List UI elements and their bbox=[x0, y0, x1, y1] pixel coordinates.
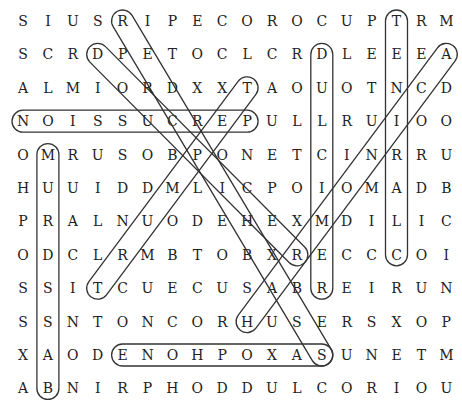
letter-cell[interactable]: X bbox=[385, 310, 409, 334]
letter-cell[interactable]: R bbox=[360, 376, 384, 400]
letter-cell[interactable]: M bbox=[434, 9, 458, 33]
letter-cell[interactable]: L bbox=[310, 109, 334, 133]
letter-cell[interactable]: R bbox=[385, 143, 409, 167]
letter-cell[interactable]: N bbox=[434, 276, 458, 300]
letter-cell[interactable]: A bbox=[11, 76, 35, 100]
letter-cell[interactable]: R bbox=[335, 109, 359, 133]
letter-cell[interactable]: I bbox=[86, 76, 110, 100]
letter-cell[interactable]: R bbox=[136, 76, 160, 100]
letter-cell[interactable]: N bbox=[61, 310, 85, 334]
letter-cell[interactable]: U bbox=[136, 109, 160, 133]
letter-cell[interactable]: L bbox=[385, 209, 409, 233]
letter-cell[interactable]: S bbox=[36, 276, 60, 300]
letter-cell[interactable]: N bbox=[61, 376, 85, 400]
letter-cell[interactable]: C bbox=[160, 109, 184, 133]
letter-cell[interactable]: N bbox=[11, 109, 35, 133]
letter-cell[interactable]: N bbox=[111, 209, 135, 233]
letter-cell[interactable]: U bbox=[61, 9, 85, 33]
letter-cell[interactable]: L bbox=[86, 243, 110, 267]
letter-cell[interactable]: U bbox=[310, 76, 334, 100]
letter-cell[interactable]: P bbox=[185, 143, 209, 167]
letter-cell[interactable]: I bbox=[360, 276, 384, 300]
letter-cell[interactable]: C bbox=[61, 243, 85, 267]
letter-cell[interactable]: I bbox=[210, 176, 234, 200]
letter-cell[interactable]: O bbox=[210, 143, 234, 167]
letter-cell[interactable]: L bbox=[335, 42, 359, 66]
letter-cell[interactable]: D bbox=[434, 76, 458, 100]
letter-cell[interactable]: E bbox=[111, 343, 135, 367]
letter-cell[interactable]: E bbox=[360, 42, 384, 66]
letter-cell[interactable]: R bbox=[61, 143, 85, 167]
letter-cell[interactable]: O bbox=[285, 176, 309, 200]
letter-cell[interactable]: X bbox=[11, 343, 35, 367]
letter-cell[interactable]: P bbox=[260, 176, 284, 200]
letter-cell[interactable]: O bbox=[285, 76, 309, 100]
letter-cell[interactable]: C bbox=[210, 9, 234, 33]
letter-cell[interactable]: D bbox=[185, 209, 209, 233]
letter-cell[interactable]: U bbox=[61, 176, 85, 200]
letter-cell[interactable]: L bbox=[36, 76, 60, 100]
letter-cell[interactable]: I bbox=[86, 176, 110, 200]
letter-cell[interactable]: S bbox=[11, 42, 35, 66]
letter-cell[interactable]: P bbox=[111, 42, 135, 66]
letter-cell[interactable]: I bbox=[434, 243, 458, 267]
letter-cell[interactable]: B bbox=[235, 243, 259, 267]
letter-cell[interactable]: T bbox=[86, 276, 110, 300]
letter-cell[interactable]: E bbox=[409, 42, 433, 66]
letter-cell[interactable]: E bbox=[260, 143, 284, 167]
letter-cell[interactable]: R bbox=[111, 243, 135, 267]
letter-cell[interactable]: L bbox=[285, 376, 309, 400]
letter-cell[interactable]: P bbox=[360, 9, 384, 33]
letter-cell[interactable]: O bbox=[11, 243, 35, 267]
letter-cell[interactable]: E bbox=[136, 42, 160, 66]
letter-cell[interactable]: U bbox=[434, 143, 458, 167]
letter-cell[interactable]: S bbox=[11, 9, 35, 33]
letter-cell[interactable]: C bbox=[235, 176, 259, 200]
letter-cell[interactable]: I bbox=[385, 376, 409, 400]
letter-cell[interactable]: C bbox=[310, 9, 334, 33]
letter-cell[interactable]: X bbox=[260, 343, 284, 367]
letter-cell[interactable]: C bbox=[36, 42, 60, 66]
letter-cell[interactable]: O bbox=[409, 310, 433, 334]
letter-cell[interactable]: P bbox=[210, 343, 234, 367]
letter-cell[interactable]: P bbox=[434, 310, 458, 334]
letter-cell[interactable]: U bbox=[260, 109, 284, 133]
letter-cell[interactable]: I bbox=[36, 9, 60, 33]
letter-cell[interactable]: M bbox=[36, 143, 60, 167]
letter-cell[interactable]: O bbox=[185, 376, 209, 400]
letter-cell[interactable]: D bbox=[86, 42, 110, 66]
letter-cell[interactable]: U bbox=[360, 109, 384, 133]
letter-cell[interactable]: A bbox=[385, 176, 409, 200]
letter-cell[interactable]: B bbox=[36, 376, 60, 400]
letter-cell[interactable]: P bbox=[11, 209, 35, 233]
letter-cell[interactable]: E bbox=[310, 243, 334, 267]
letter-cell[interactable]: M bbox=[160, 176, 184, 200]
letter-cell[interactable]: D bbox=[160, 76, 184, 100]
letter-cell[interactable]: D bbox=[36, 243, 60, 267]
letter-cell[interactable]: L bbox=[86, 209, 110, 233]
letter-cell[interactable]: A bbox=[285, 343, 309, 367]
letter-cell[interactable]: H bbox=[160, 376, 184, 400]
letter-cell[interactable]: N bbox=[385, 76, 409, 100]
letter-cell[interactable]: R bbox=[260, 9, 284, 33]
letter-cell[interactable]: I bbox=[335, 143, 359, 167]
letter-cell[interactable]: D bbox=[335, 209, 359, 233]
letter-cell[interactable]: D bbox=[409, 176, 433, 200]
letter-cell[interactable]: I bbox=[310, 176, 334, 200]
letter-cell[interactable]: R bbox=[409, 143, 433, 167]
letter-cell[interactable]: R bbox=[185, 109, 209, 133]
letter-cell[interactable]: H bbox=[235, 310, 259, 334]
letter-cell[interactable]: A bbox=[11, 376, 35, 400]
letter-cell[interactable]: R bbox=[385, 276, 409, 300]
letter-cell[interactable]: S bbox=[235, 276, 259, 300]
letter-cell[interactable]: E bbox=[260, 209, 284, 233]
letter-cell[interactable]: U bbox=[36, 176, 60, 200]
letter-cell[interactable]: A bbox=[260, 76, 284, 100]
letter-cell[interactable]: O bbox=[111, 310, 135, 334]
letter-cell[interactable]: U bbox=[409, 276, 433, 300]
letter-cell[interactable]: O bbox=[285, 9, 309, 33]
letter-cell[interactable]: N bbox=[136, 310, 160, 334]
letter-cell[interactable]: M bbox=[310, 209, 334, 233]
letter-cell[interactable]: R bbox=[335, 310, 359, 334]
letter-cell[interactable]: R bbox=[111, 376, 135, 400]
